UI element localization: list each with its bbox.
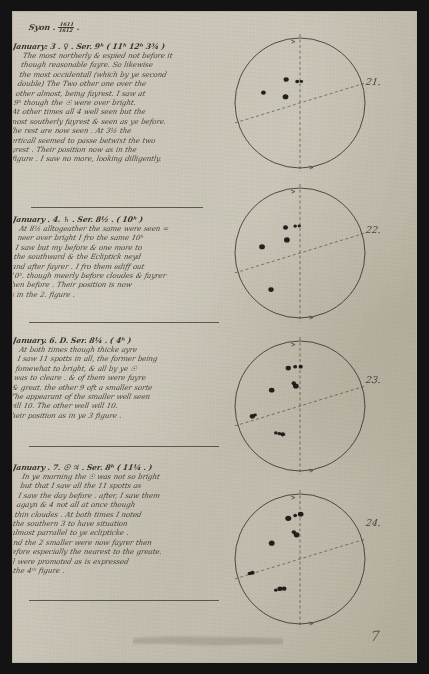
- sunspot-mark: [285, 516, 291, 521]
- figure-label-22: 22.: [365, 224, 382, 235]
- entry-body: In ye morning the ☉ was not so bright bu…: [12, 472, 213, 575]
- place-name: Syon .: [28, 22, 56, 32]
- sun-disc-figure: [231, 490, 369, 628]
- manuscript-page: Syon . 1611 1612 . January: 3 . ♀ . Ser.…: [12, 11, 417, 663]
- direction-arrow-icon: [291, 40, 295, 43]
- sunspot-mark: [293, 225, 297, 228]
- figure-label-21: 21.: [365, 76, 382, 87]
- sun-diagram-23: [231, 337, 369, 475]
- sunspot-mark: [293, 365, 297, 369]
- sunspot-mark: [298, 225, 301, 228]
- sunspot-mark: [261, 91, 266, 95]
- sunspot-mark: [269, 541, 275, 546]
- manuscript-frame: Syon . 1611 1612 . January: 3 . ♀ . Ser.…: [0, 0, 429, 674]
- sunspot-mark: [284, 237, 290, 242]
- direction-arrow-icon: [291, 343, 295, 346]
- entry-body: The most northerly & espied not before i…: [12, 51, 214, 164]
- sunspot-mark: [259, 244, 265, 249]
- entry-jan-7: January . 7. ☉ ♃ . Ser. 8ʰ ( 11¼ . ) In …: [13, 463, 203, 575]
- sunspot-mark: [286, 366, 291, 371]
- sunspot-mark: [253, 413, 256, 416]
- figure-label-24: 24.: [365, 517, 382, 528]
- page-number: 7: [371, 628, 381, 645]
- direction-arrow-icon: [291, 190, 295, 193]
- entry-heading: January. 6. D. Ser. 8¼ . ( 4ʰ ): [12, 336, 203, 345]
- entry-divider-4: [29, 600, 219, 601]
- sunspot-mark: [282, 587, 287, 591]
- page-title-line: Syon . 1611 1612 .: [28, 22, 220, 33]
- year-fraction: 1611 1612: [57, 22, 75, 32]
- sunspot-mark: [299, 365, 303, 369]
- ink-bleedthrough: [133, 634, 283, 648]
- entry-heading: January . 4. ♄ . Ser. 8½ . ( 10ʰ ): [12, 215, 203, 224]
- sunspot-mark: [274, 588, 278, 591]
- entry-divider-1: [31, 207, 203, 208]
- entry-jan-4: January . 4. ♄ . Ser. 8½ . ( 10ʰ ) At 8½…: [13, 215, 203, 299]
- entry-jan-6: January. 6. D. Ser. 8¼ . ( 4ʰ ) At both …: [13, 336, 203, 420]
- sunspot-mark: [280, 432, 285, 436]
- sun-diagram-22: [231, 184, 369, 322]
- entry-divider-3: [29, 446, 219, 447]
- direction-arrow-icon: [291, 496, 295, 499]
- sunspot-mark: [268, 287, 273, 292]
- sunspot-mark: [274, 431, 278, 434]
- year-denominator: 1612: [57, 28, 74, 33]
- sunspot-mark: [283, 94, 289, 99]
- entry-jan-3: January: 3 . ♀ . Ser. 9ʰ ( 11ʰ 12ʰ 3¾ ) …: [13, 42, 203, 164]
- sunspot-mark: [293, 514, 297, 517]
- sunspot-mark: [294, 532, 300, 537]
- entry-heading: January . 7. ☉ ♃ . Ser. 8ʰ ( 11¼ . ): [12, 463, 203, 472]
- sunspot-mark: [293, 383, 299, 388]
- sunspot-mark: [284, 77, 289, 82]
- sunspot-mark: [283, 225, 288, 229]
- sunspot-mark: [298, 512, 304, 517]
- sunspot-mark: [295, 80, 299, 84]
- entry-body: At 8½ alltogeather the same were seen = …: [12, 224, 210, 299]
- entry-divider-2: [29, 322, 219, 323]
- sun-disc-figure: [231, 184, 369, 322]
- figure-label-23: 23.: [365, 374, 382, 385]
- sun-disc-figure: [231, 337, 369, 475]
- sun-diagram-21: [231, 34, 369, 172]
- sunspot-mark: [250, 571, 255, 575]
- sunspot-mark: [300, 80, 303, 83]
- document-title-block: Syon . 1611 1612 .: [29, 22, 219, 33]
- sunspot-mark: [269, 388, 275, 393]
- entry-body: At both times though thicke ayre I saw 1…: [12, 345, 210, 420]
- sun-diagram-24: [231, 490, 369, 628]
- entry-heading: January: 3 . ♀ . Ser. 9ʰ ( 11ʰ 12ʰ 3¾ ): [12, 42, 203, 51]
- sun-disc-figure: [231, 34, 369, 172]
